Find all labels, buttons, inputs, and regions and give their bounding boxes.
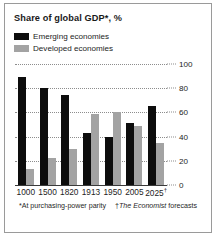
- x-tick-label-1950: 1950: [102, 187, 124, 198]
- bar-emerging-1820: [61, 95, 69, 185]
- x-tick-label-1000: 1000: [15, 187, 37, 198]
- chart-legend: Emerging economies Developed economies: [14, 31, 113, 55]
- bar-developed-1500: [48, 158, 56, 185]
- bar-group: [102, 64, 124, 185]
- legend-item-emerging: Emerging economies: [14, 31, 113, 42]
- x-tick-label-1500: 1500: [37, 187, 59, 198]
- bar-emerging-1500: [40, 88, 48, 185]
- chart-screenshot: Share of global GDP*, % Emerging economi…: [0, 0, 216, 237]
- footnote-forecast: †The Economist forecasts: [115, 202, 197, 210]
- bar-group: [58, 64, 80, 185]
- y-tick-label-100: 100: [179, 60, 193, 69]
- bar-group: [15, 64, 37, 185]
- bar-developed-1950: [113, 112, 121, 185]
- legend-swatch-emerging-icon: [14, 33, 29, 40]
- y-tick-mark-80: [167, 88, 176, 89]
- x-tick-marker-2025: †: [164, 187, 167, 193]
- bar-emerging-1913: [83, 133, 91, 185]
- legend-swatch-developed-icon: [14, 45, 29, 52]
- y-tick-label-80: 80: [179, 84, 188, 93]
- footnote-forecast-publication: The Economist: [119, 202, 166, 210]
- x-tick-label-2005: 2005: [124, 187, 146, 198]
- x-tick-label-1820: 1820: [58, 187, 80, 198]
- x-tick-label-1913: 1913: [80, 187, 102, 198]
- y-tick-mark-0: [167, 185, 176, 186]
- bar-emerging-2025: [148, 106, 156, 185]
- y-tick-mark-60: [167, 112, 176, 113]
- bar-group: [37, 64, 59, 185]
- x-axis: 1000150018201913195020052025†: [15, 187, 167, 198]
- y-tick-mark-20: [167, 160, 176, 161]
- bar-developed-2005: [134, 126, 142, 185]
- footnote-forecast-suffix: forecasts: [166, 202, 197, 210]
- chart-footnotes: *At purchasing-power parity †The Economi…: [0, 202, 216, 210]
- legend-label-developed: Developed economies: [33, 44, 113, 53]
- x-tick-label-2025: 2025†: [145, 187, 167, 198]
- y-tick-label-40: 40: [179, 132, 188, 141]
- bar-group: [145, 64, 167, 185]
- gridline-0: [15, 185, 167, 186]
- bar-developed-1000: [26, 169, 34, 185]
- y-tick-label-60: 60: [179, 108, 188, 117]
- legend-item-developed: Developed economies: [14, 43, 113, 54]
- y-tick-label-20: 20: [179, 156, 188, 165]
- legend-label-emerging: Emerging economies: [33, 32, 109, 41]
- bar-emerging-1000: [18, 77, 26, 185]
- bar-developed-1820: [69, 149, 77, 185]
- footnote-source: *At purchasing-power parity: [19, 202, 106, 210]
- plot-area: [15, 64, 167, 185]
- bar-developed-1913: [91, 114, 99, 185]
- bar-developed-2025: [156, 143, 164, 185]
- bar-emerging-2005: [126, 123, 134, 185]
- bar-groups: [15, 64, 167, 185]
- bar-emerging-1950: [105, 137, 113, 185]
- bar-group: [124, 64, 146, 185]
- y-tick-label-0: 0: [179, 181, 184, 190]
- y-tick-mark-40: [167, 136, 176, 137]
- bar-group: [80, 64, 102, 185]
- y-axis: 020406080100: [167, 64, 207, 185]
- chart-title: Share of global GDP*, %: [14, 13, 122, 23]
- y-tick-mark-100: [167, 64, 176, 65]
